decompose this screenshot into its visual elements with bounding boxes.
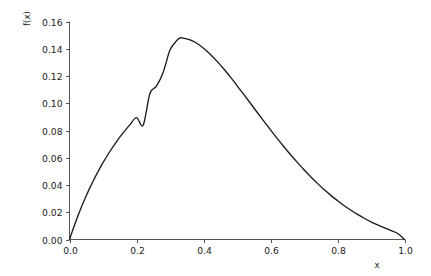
y-axis-tick-labels: 0.000.020.040.060.080.100.120.140.16 xyxy=(42,17,63,246)
y-axis-label: f(x) xyxy=(22,11,32,26)
x-axis-label: x xyxy=(374,260,379,270)
x-tick-label: 0.4 xyxy=(197,245,212,256)
figure-background xyxy=(0,0,431,276)
x-tick-label: 1.0 xyxy=(398,245,413,256)
x-tick-label: 0.0 xyxy=(63,245,78,256)
y-tick-label: 0.14 xyxy=(42,44,63,55)
y-tick-label: 0.16 xyxy=(42,17,63,28)
line-chart: 0.000.020.040.060.080.100.120.140.16 0.0… xyxy=(0,0,431,276)
x-tick-label: 0.2 xyxy=(130,245,145,256)
y-tick-label: 0.00 xyxy=(42,235,63,246)
chart-figure: 0.000.020.040.060.080.100.120.140.16 0.0… xyxy=(0,0,431,276)
y-tick-label: 0.08 xyxy=(42,126,63,137)
x-tick-label: 0.6 xyxy=(264,245,279,256)
y-tick-label: 0.10 xyxy=(42,98,63,109)
y-tick-label: 0.04 xyxy=(42,180,63,191)
y-tick-label: 0.06 xyxy=(42,153,63,164)
x-tick-label: 0.8 xyxy=(331,245,346,256)
y-tick-label: 0.02 xyxy=(42,207,62,218)
y-tick-label: 0.12 xyxy=(42,71,62,82)
